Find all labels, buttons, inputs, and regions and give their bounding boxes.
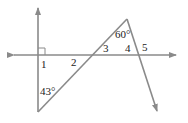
angle-3-label: 3	[103, 42, 109, 54]
angle-1-label: 1	[41, 58, 47, 70]
angle-43-label: 43°	[40, 85, 55, 97]
angle-60-label: 60°	[115, 28, 130, 40]
angle-5-label: 5	[142, 41, 148, 53]
right-angle-mark	[38, 48, 45, 55]
angle-2-label: 2	[71, 56, 77, 68]
angle-4-label: 4	[125, 42, 131, 54]
transversal-ray	[127, 19, 157, 111]
diagonal-line	[38, 19, 127, 112]
geometry-diagram: 1 2 3 4 5 60° 43°	[0, 0, 188, 123]
